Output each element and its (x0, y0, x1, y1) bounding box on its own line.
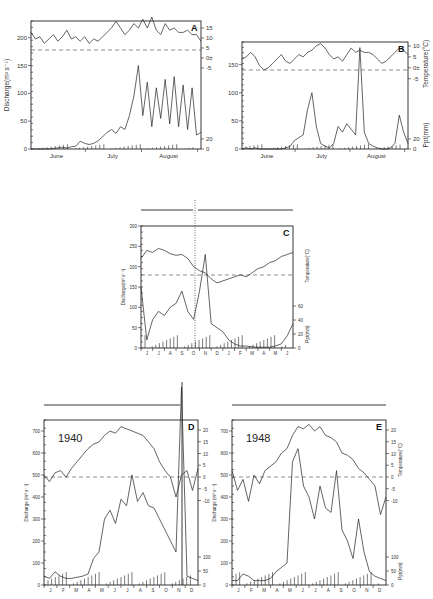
y-tick-label: 700 (220, 429, 228, 434)
x-tick-label: June (50, 153, 64, 159)
x-tick-label: S (152, 588, 155, 593)
temp-tick-label: 0 (203, 475, 206, 480)
x-tick-label: A (262, 351, 265, 356)
x-tick-label: O (352, 588, 356, 593)
temp-tick-label: 15 (391, 440, 397, 445)
temp-tick-label: 20 (391, 428, 397, 433)
y-axis-title: Discharge (m³ s⁻¹) (212, 483, 217, 521)
y-tick-label: 0 (235, 146, 239, 152)
plot-frame (232, 420, 386, 585)
y-tick-label: 400 (32, 495, 40, 500)
temp-tick-label: 10 (203, 452, 209, 457)
temp-tick-label: 15 (203, 440, 209, 445)
temp-tick-label: -10 (391, 499, 398, 504)
chart-panel-a: 050100150200JuneJulyAugust151050±-5200AD… (3, 17, 213, 159)
y-tick-label: 100 (220, 561, 228, 566)
temp-tick-label: -5 (203, 487, 207, 492)
chart-panel-b: 050100150JuneJulyAugust1050±-5200BTemper… (228, 40, 430, 159)
y-tick-label: 100 (228, 90, 239, 96)
y-tick-label: 0 (134, 346, 137, 351)
temp-tick-label: -5 (206, 65, 212, 71)
ppt-tick-label: 100 (391, 555, 399, 560)
x-tick-label: M (262, 588, 266, 593)
y-axis-title: Discharge(m³ s⁻¹) (3, 59, 11, 111)
y-tick-label: 300 (32, 517, 40, 522)
ppt-tick-label: 0 (391, 583, 394, 588)
year-label: 1940 (58, 432, 82, 444)
y-tick-label: 500 (220, 473, 228, 478)
x-tick-label: A (169, 351, 172, 356)
x-tick-label: J (126, 588, 128, 593)
y-axis-title: Discharge(m³ s⁻¹) (121, 268, 126, 305)
y-tick-label: 300 (129, 224, 137, 229)
x-tick-label: J (228, 351, 230, 356)
temp-tick-label: -10 (203, 499, 210, 504)
panel-label: B (398, 44, 405, 54)
x-tick-label: S (340, 588, 343, 593)
ppt-tick-label: 50 (391, 569, 397, 574)
x-tick-label: J (113, 588, 115, 593)
temp-tick-label: 15 (206, 25, 213, 31)
temperature-axis-title: Temperature(°C) (422, 40, 430, 88)
temp-tick-label: 10 (413, 43, 420, 49)
y-tick-label: 100 (32, 561, 40, 566)
y-axis-title: Discharge (m³ s⁻¹) (24, 483, 29, 521)
ppt-tick-label: 20 (206, 136, 213, 142)
temp-tick-label: 5 (413, 54, 417, 60)
x-tick-label: N (365, 588, 368, 593)
ppt-axis-title: Ppt(mm) (398, 562, 403, 580)
x-tick-label: J (286, 351, 288, 356)
y-tick-label: 0 (24, 146, 28, 152)
y-tick-label: 50 (132, 326, 138, 331)
y-tick-label: 150 (228, 62, 239, 68)
plot-frame (141, 226, 293, 348)
discharge-line (31, 66, 201, 150)
x-tick-label: July (316, 153, 327, 159)
panel-label: D (188, 422, 195, 432)
x-tick-label: A (139, 588, 142, 593)
x-tick-label: A (275, 588, 278, 593)
x-tick-label: O (192, 351, 196, 356)
temperature-line (242, 44, 408, 70)
y-tick-label: 600 (220, 451, 228, 456)
x-tick-label: F (250, 588, 253, 593)
plot-frame (242, 42, 408, 149)
x-tick-label: M (274, 351, 278, 356)
hydrograph-figure: 050100150200JuneJulyAugust151050±-5200AD… (0, 0, 433, 599)
x-tick-label: A (87, 588, 90, 593)
temp-tick-label: -5 (413, 76, 419, 82)
discharge-line (141, 255, 293, 348)
ppt-tick-label: 0 (203, 583, 206, 588)
x-tick-label: J (237, 588, 239, 593)
y-tick-label: 200 (17, 35, 28, 41)
temp-tick-label: 5 (206, 45, 210, 51)
y-tick-label: 200 (220, 539, 228, 544)
ppt-tick-label: 0 (206, 146, 210, 152)
panel-label: C (283, 228, 290, 238)
temp-tick-label: 20 (203, 428, 209, 433)
y-tick-label: 0 (37, 583, 40, 588)
x-tick-label: N (177, 588, 180, 593)
x-tick-label: F (239, 351, 242, 356)
x-tick-label: F (62, 588, 65, 593)
x-tick-label: D (215, 351, 219, 356)
x-tick-label: J (146, 351, 148, 356)
y-tick-label: 50 (231, 118, 238, 124)
ppt-tick-label: 40 (298, 318, 304, 323)
temp-tick-label: 0 (391, 475, 394, 480)
y-tick-label: 200 (129, 265, 137, 270)
ppt-axis-title: Ppt(mm) (305, 325, 310, 343)
discharge-line (232, 449, 386, 581)
x-tick-label: J (157, 351, 159, 356)
chart-panel-e: 0100200300400500600700JFMAMJJASOND201510… (212, 420, 403, 593)
y-tick-label: 50 (20, 118, 27, 124)
y-tick-label: 300 (220, 517, 228, 522)
ppt-tick-label: 20 (298, 332, 304, 337)
ppt-tick-label: 60 (298, 304, 304, 309)
y-tick-label: 100 (129, 305, 137, 310)
ppt-tick-label: 50 (203, 569, 209, 574)
x-tick-label: M (250, 351, 254, 356)
ppt-tick-label: 100 (203, 555, 211, 560)
discharge-line (44, 387, 198, 581)
temperature-line (141, 248, 293, 283)
